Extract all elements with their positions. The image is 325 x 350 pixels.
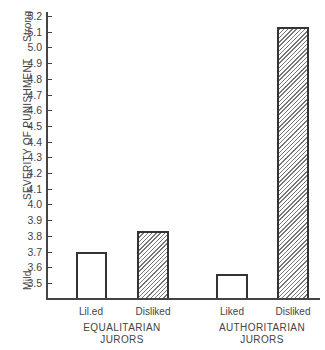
y-tick-label: 3.9 bbox=[4, 214, 42, 226]
bar-equalitarian-liked bbox=[76, 252, 107, 298]
y-tick bbox=[46, 16, 52, 17]
group-label-equalitarian: EQUALITARIAN JURORS bbox=[62, 322, 182, 346]
y-tick bbox=[46, 267, 52, 268]
y-tick bbox=[46, 110, 52, 111]
y-tick bbox=[46, 220, 52, 221]
y-tick-label: 3.7 bbox=[4, 246, 42, 258]
y-tick bbox=[46, 95, 52, 96]
bar-authoritarian-disliked bbox=[277, 27, 309, 298]
y-tick bbox=[46, 173, 52, 174]
group-label-line2: JURORS bbox=[202, 334, 322, 346]
y-tick bbox=[46, 204, 52, 205]
y-axis-label: SEVERITY OF PUNISHMENT bbox=[22, 59, 33, 200]
category-label: Disliked bbox=[123, 306, 183, 317]
group-label-line1: AUTHORITARIAN bbox=[202, 322, 322, 334]
y-tick bbox=[46, 283, 52, 284]
y-tick bbox=[46, 32, 52, 33]
y-tick bbox=[46, 236, 52, 237]
y-tick bbox=[46, 63, 52, 64]
category-label: Disliked bbox=[263, 306, 323, 317]
bar-authoritarian-liked bbox=[216, 274, 248, 298]
y-tick bbox=[46, 79, 52, 80]
x-axis bbox=[46, 298, 320, 300]
group-label-line1: EQUALITARIAN bbox=[62, 322, 182, 334]
y-tick bbox=[46, 47, 52, 48]
y-tick bbox=[46, 189, 52, 190]
y-tick bbox=[46, 157, 52, 158]
y-axis bbox=[46, 12, 48, 299]
y-tick-label: 5.0 bbox=[4, 41, 42, 53]
y-axis-low-label: Mild bbox=[22, 270, 33, 290]
y-tick-label: 3.8 bbox=[4, 230, 42, 242]
group-label-line2: JURORS bbox=[62, 334, 182, 346]
y-tick bbox=[46, 252, 52, 253]
y-tick bbox=[46, 142, 52, 143]
y-tick bbox=[46, 126, 52, 127]
category-label: Liked bbox=[202, 306, 262, 317]
bar-equalitarian-disliked bbox=[137, 231, 169, 298]
y-axis-high-label: Strong bbox=[22, 11, 33, 42]
group-label-authoritarian: AUTHORITARIAN JURORS bbox=[202, 322, 322, 346]
category-label: Lil.ed bbox=[61, 306, 121, 317]
